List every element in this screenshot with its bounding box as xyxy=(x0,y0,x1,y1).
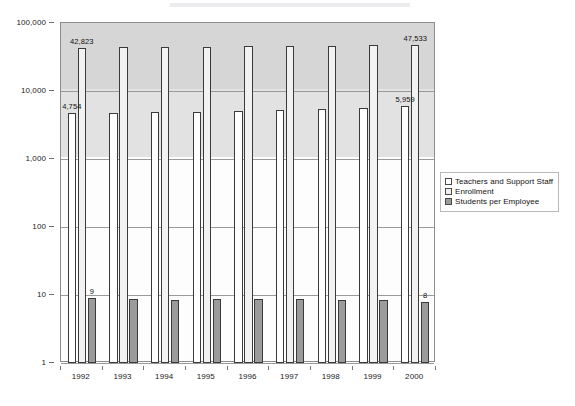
bar-value-label-2000-series1: 47,533 xyxy=(403,34,427,43)
bar-1998-series2 xyxy=(338,300,347,364)
x-tick-label-2000: 2000 xyxy=(405,372,423,381)
legend-swatch-white-icon xyxy=(445,178,452,185)
plot-area: 4,75442,82395,95947,5338 xyxy=(60,22,435,362)
legend-swatch-lightgray-icon xyxy=(445,188,452,195)
y-tick-label-1000: 1,000 xyxy=(25,154,46,163)
bar-1996-series0 xyxy=(234,111,243,363)
x-tick-mark xyxy=(393,366,394,370)
bar-1995-series1 xyxy=(203,47,212,364)
y-tick-mark xyxy=(49,226,54,227)
x-tick-mark xyxy=(143,366,144,370)
bar-value-label-1992-series0: 4,754 xyxy=(62,102,81,111)
x-tick-mark xyxy=(352,366,353,370)
x-tick-label-1999: 1999 xyxy=(363,372,381,381)
x-tick-mark xyxy=(268,366,269,370)
bar-1997-series0 xyxy=(276,110,285,363)
bar-1992-series1 xyxy=(78,48,87,363)
bar-1998-series1 xyxy=(328,46,337,364)
bar-value-label-2000-series0: 5,959 xyxy=(396,95,415,104)
bar-value-label-1992-series2: 9 xyxy=(90,287,94,296)
bar-1992-series2 xyxy=(88,298,97,363)
legend: Teachers and Support Staff Enrollment St… xyxy=(440,172,559,212)
y-axis: 100,00010,0001,000100101 xyxy=(0,22,54,362)
bar-1999-series2 xyxy=(379,300,388,364)
bar-2000-series0 xyxy=(401,106,410,363)
bar-1992-series0 xyxy=(68,113,77,363)
legend-item-teachers: Teachers and Support Staff xyxy=(445,177,553,186)
y-tick-mark xyxy=(49,90,54,91)
legend-label-enrollment: Enrollment xyxy=(455,187,494,196)
y-tick-label-100000: 100,000 xyxy=(16,18,46,27)
y-tick-mark xyxy=(49,22,54,23)
legend-item-students-per-employee: Students per Employee xyxy=(445,197,553,206)
bar-1997-series1 xyxy=(286,46,295,363)
legend-item-enrollment: Enrollment xyxy=(445,187,553,196)
bar-value-label-2000-series2: 8 xyxy=(423,291,427,300)
bar-1994-series0 xyxy=(151,112,160,363)
bar-1993-series2 xyxy=(129,299,138,363)
bar-1996-series2 xyxy=(254,299,263,363)
gridline-1 xyxy=(61,363,434,364)
y-tick-mark xyxy=(49,158,54,159)
x-tick-mark xyxy=(102,366,103,370)
y-tick-label-10000: 10,000 xyxy=(21,86,46,95)
bar-1994-series2 xyxy=(171,300,180,364)
x-tick-label-1997: 1997 xyxy=(280,372,298,381)
x-tick-mark xyxy=(435,366,436,370)
y-tick-label-100: 100 xyxy=(32,222,46,231)
x-tick-label-1993: 1993 xyxy=(113,372,131,381)
bar-1995-series2 xyxy=(213,299,222,363)
bar-2000-series2 xyxy=(421,302,430,363)
bar-1993-series1 xyxy=(119,47,128,363)
scan-artifact xyxy=(170,3,410,7)
legend-label-teachers: Teachers and Support Staff xyxy=(455,177,553,186)
bar-value-label-1992-series1: 42,823 xyxy=(70,37,94,46)
bar-1995-series0 xyxy=(193,112,202,363)
bar-1994-series1 xyxy=(161,47,170,363)
bar-1993-series0 xyxy=(109,113,118,363)
bar-1997-series2 xyxy=(296,299,305,363)
legend-label-students-per-employee: Students per Employee xyxy=(455,197,539,206)
bar-2000-series1 xyxy=(411,45,420,363)
x-tick-label-1996: 1996 xyxy=(238,372,256,381)
legend-swatch-darkgray-icon xyxy=(445,198,452,205)
bar-1999-series0 xyxy=(359,108,368,363)
x-tick-label-1992: 1992 xyxy=(72,372,90,381)
chart-container: 100,00010,0001,000100101 4,75442,82395,9… xyxy=(0,0,575,406)
x-tick-label-1994: 1994 xyxy=(155,372,173,381)
x-tick-mark xyxy=(310,366,311,370)
x-tick-mark xyxy=(60,366,61,370)
y-tick-label-10: 10 xyxy=(37,290,46,299)
y-tick-mark xyxy=(49,294,54,295)
y-tick-mark xyxy=(49,362,54,363)
x-tick-mark xyxy=(227,366,228,370)
bar-1996-series1 xyxy=(244,46,253,363)
x-axis: 199219931994199519961997199819992000 xyxy=(60,366,435,386)
x-tick-label-1998: 1998 xyxy=(322,372,340,381)
y-tick-label-1: 1 xyxy=(41,358,46,367)
bar-1999-series1 xyxy=(369,45,378,363)
x-tick-mark xyxy=(185,366,186,370)
bar-1998-series0 xyxy=(318,109,327,363)
x-tick-label-1995: 1995 xyxy=(197,372,215,381)
